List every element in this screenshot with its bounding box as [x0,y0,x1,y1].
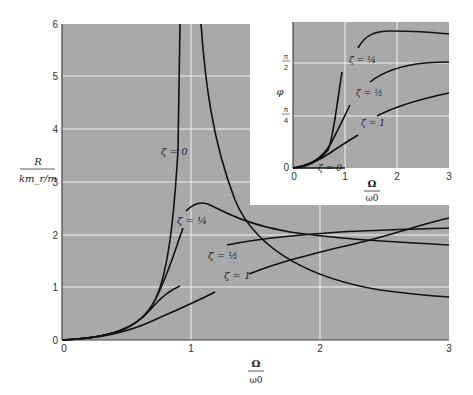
inset-x-label-denominator: ω0 [365,193,378,203]
inset-y-tick-pi2-num: π [284,53,289,60]
y-tick-4: 4 [52,124,58,135]
label-zeta-0: ζ = 0 [161,146,188,157]
y-label-denominator: km_r/m [19,173,57,185]
inset-y-tick-pi4-den: 4 [284,116,289,125]
y-tick-5: 5 [52,71,58,82]
main-x-label: Ω ω0 [248,358,264,385]
inset-x-tick-0: 0 [291,171,297,182]
x-tick-0: 0 [61,343,67,354]
inset-label-zeta-one: ζ = 1 [361,118,385,128]
label-zeta-quarter: ζ = ¼ [177,215,207,226]
figure: 0 1 2 3 4 5 6 0 1 2 3 R km_r/m Ω ω0 [0,0,473,395]
x-label-denominator: ω0 [249,375,262,385]
x-tick-3: 3 [446,343,452,354]
inset-x-label-numerator: Ω [368,178,377,189]
inset-label-zeta-quarter: ζ = ¼ [349,55,376,65]
main-y-label: R km_r/m [19,156,57,185]
inset-y-tick-pi4-num: π [284,106,289,113]
x-tick-2: 2 [317,343,323,354]
inset-label-zeta-half: ζ = ½ [356,88,383,98]
inset-x-tick-1: 1 [342,171,348,182]
x-label-numerator: Ω [252,358,261,369]
main-x-tick-labels: 0 1 2 3 [61,343,452,354]
y-tick-2: 2 [52,230,58,241]
y-tick-1: 1 [52,282,58,293]
y-tick-6: 6 [52,19,58,30]
x-tick-1: 1 [188,343,194,354]
inset-x-tick-2: 2 [394,171,400,182]
y-tick-0: 0 [52,335,58,346]
inset-y-label: φ [276,86,283,97]
inset-x-tick-3: 3 [446,171,452,182]
y-label-numerator: R [33,156,42,167]
inset-y-tick-pi2-den: 2 [284,63,289,72]
inset-y-tick-0: 0 [283,162,289,173]
label-zeta-half: ζ = ½ [208,250,238,261]
inset-label-zeta-0: ζ = 0 [318,163,342,173]
label-zeta-one: ζ = 1 [224,270,251,281]
